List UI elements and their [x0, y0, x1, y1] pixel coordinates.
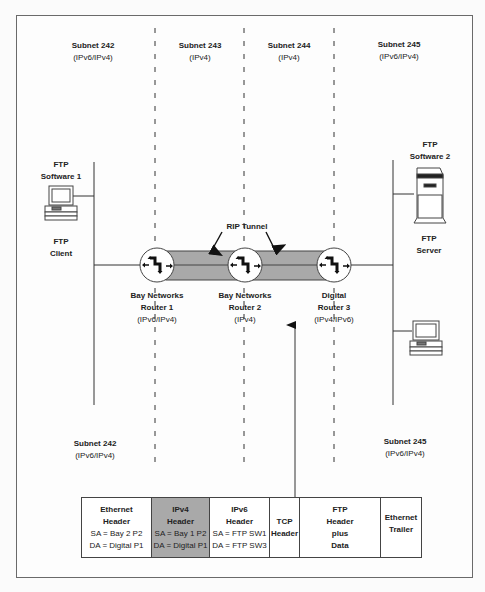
- cell-title: Ethernet: [100, 504, 132, 516]
- packet-ipv4-header: IPv4 Header SA = Bay 1 P2 DA = Digital P…: [152, 498, 210, 557]
- source-address: SA = Bay 1 P2: [155, 528, 207, 540]
- destination-address: DA = Digital P1: [89, 540, 143, 552]
- cell-title: IPv4: [172, 504, 188, 516]
- subnet-protocol: (IPv6/IPv4): [70, 450, 120, 462]
- packet-ipv6-header: IPv6 Header SA = FTP SW1 DA = FTP SW3: [210, 498, 270, 557]
- cell-subtitle-3: Data: [331, 540, 348, 552]
- cell-subtitle-2: plus: [332, 528, 348, 540]
- destination-address: DA = Digital P1: [153, 540, 207, 552]
- subnet-245-bottom-label: Subnet 245 (IPv6/IPv4): [380, 436, 430, 460]
- tunnel-arrow-right: [266, 232, 275, 250]
- cell-title: FTP: [332, 504, 347, 516]
- subnet-name: Subnet 242: [70, 438, 120, 450]
- client-software-label: FTP Software 1: [36, 159, 86, 183]
- packet-ethernet-header: Ethernet Header SA = Bay 2 P2 DA = Digit…: [82, 498, 152, 557]
- packet-structure: Ethernet Header SA = Bay 2 P2 DA = Digit…: [81, 497, 422, 558]
- client-role-label: FTP Client: [36, 236, 86, 260]
- host-role-name: Client: [36, 248, 86, 260]
- server-role-label: FTP Server: [404, 233, 454, 257]
- subnet-245-top-label: Subnet 245 (IPv6/IPv4): [374, 39, 424, 63]
- tunnel-arrow-left: [212, 232, 222, 250]
- workstation-computer-icon: [410, 321, 442, 355]
- cell-subtitle: Header: [326, 516, 353, 528]
- router-name: Router 3: [299, 302, 369, 314]
- client-computer-icon: [45, 186, 77, 220]
- router-name: Router 2: [210, 302, 280, 314]
- subnet-protocol: (IPv4): [264, 52, 314, 64]
- router-1-icon: [140, 248, 174, 282]
- subnet-242-bottom-label: Subnet 242 (IPv6/IPv4): [70, 438, 120, 462]
- subnet-244-top-label: Subnet 244 (IPv4): [264, 40, 314, 64]
- router-2-label: Bay Networks Router 2 (IPv4): [210, 290, 280, 326]
- subnet-protocol: (IPv4): [175, 52, 225, 64]
- tunnel-label-text: RIP Tunnel: [222, 221, 272, 233]
- cell-title: Ethernet: [385, 512, 417, 524]
- subnet-name: Subnet 243: [175, 40, 225, 52]
- subnet-name: Subnet 244: [264, 40, 314, 52]
- cell-title: IPv6: [231, 504, 247, 516]
- subnet-name: Subnet 245: [380, 436, 430, 448]
- source-address: SA = Bay 2 P2: [91, 528, 143, 540]
- host-title: FTP: [405, 139, 455, 151]
- packet-ftp-header-data: FTP Header plus Data: [300, 498, 381, 557]
- subnet-protocol: (IPv6/IPv4): [374, 51, 424, 63]
- router-protocol: (IPv4): [210, 314, 280, 326]
- rip-tunnel-label: RIP Tunnel: [222, 221, 272, 233]
- subnet-name: Subnet 242: [68, 40, 118, 52]
- subnet-242-top-label: Subnet 242 (IPv6/IPv4): [68, 40, 118, 64]
- source-address: SA = FTP SW1: [213, 528, 267, 540]
- router-3-label: Digital Router 3 (IPv4/IPv6): [299, 290, 369, 326]
- cell-title: TCP: [277, 516, 293, 528]
- packet-tcp-header: TCP Header: [270, 498, 300, 557]
- cell-subtitle: Header: [271, 528, 298, 540]
- server-software-label: FTP Software 2: [405, 139, 455, 163]
- subnet-protocol: (IPv6/IPv4): [68, 52, 118, 64]
- destination-address: DA = FTP SW3: [212, 540, 266, 552]
- subnet-boundary-lines: [155, 28, 334, 465]
- router-2-icon: [228, 248, 262, 282]
- router-vendor: Bay Networks: [210, 290, 280, 302]
- cell-subtitle: Header: [167, 516, 194, 528]
- router-1-label: Bay Networks Router 1 (IPv6/IPv4): [122, 290, 192, 326]
- subnet-protocol: (IPv6/IPv4): [380, 448, 430, 460]
- host-role-name: Server: [404, 245, 454, 257]
- cell-subtitle: Header: [226, 516, 253, 528]
- router-3-icon: [317, 248, 351, 282]
- host-role: FTP: [404, 233, 454, 245]
- cell-subtitle: Trailer: [389, 524, 413, 536]
- cell-subtitle: Header: [103, 516, 130, 528]
- router-protocol: (IPv6/IPv4): [122, 314, 192, 326]
- subnet-243-top-label: Subnet 243 (IPv4): [175, 40, 225, 64]
- host-role: FTP: [36, 236, 86, 248]
- subnet-name: Subnet 245: [374, 39, 424, 51]
- router-vendor: Digital: [299, 290, 369, 302]
- host-subtitle: Software 2: [405, 151, 455, 163]
- router-vendor: Bay Networks: [122, 290, 192, 302]
- router-name: Router 1: [122, 302, 192, 314]
- packet-ethernet-trailer: Ethernet Trailer: [381, 498, 421, 557]
- router-protocol: (IPv4/IPv6): [299, 314, 369, 326]
- host-subtitle: Software 1: [36, 171, 86, 183]
- server-tower-icon: [414, 168, 446, 223]
- host-title: FTP: [36, 159, 86, 171]
